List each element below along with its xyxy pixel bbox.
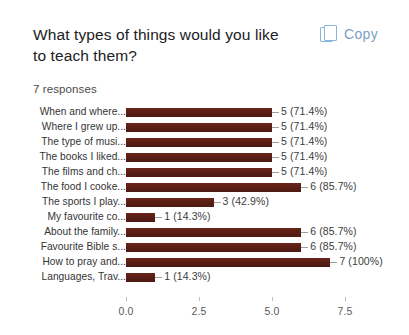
leader-line [301,247,308,248]
category-label: Where I grew up... [42,121,126,132]
x-axis-tick-label: 7.5 [337,305,352,317]
category-label: The films and ch... [42,166,126,177]
category-label: The books I liked... [39,151,126,162]
bar-value-label: 5 (71.4%) [281,135,327,147]
x-axis-tick [126,297,127,301]
copy-button[interactable]: Copy [320,25,378,42]
leader-line [272,157,279,158]
category-label: The sports I play... [42,196,126,207]
chart-row: The books I liked...5 (71.4%) [0,150,409,165]
x-axis-tick-label: 0.0 [118,305,133,317]
x-axis: 0.02.55.07.5 [0,297,409,335]
category-label: How to pray and... [42,256,126,267]
chart-row: My favourite co...1 (14.3%) [0,210,409,225]
chart-bar[interactable] [126,273,155,282]
chart-bar[interactable] [126,168,272,177]
chart-row: The films and ch...5 (71.4%) [0,165,409,180]
leader-line [214,202,221,203]
chart-bar[interactable] [126,123,272,132]
x-axis-tick-label: 5.0 [264,305,279,317]
chart-row: The type of musi...5 (71.4%) [0,135,409,150]
leader-line [272,142,279,143]
bar-chart: When and where...5 (71.4%)Where I grew u… [0,105,409,335]
copy-button-label: Copy [344,26,378,42]
chart-plot-area: When and where...5 (71.4%)Where I grew u… [0,105,409,297]
leader-line [272,112,279,113]
bar-value-label: 5 (71.4%) [281,120,327,132]
chart-bar[interactable] [126,183,301,192]
chart-bar[interactable] [126,213,155,222]
leader-line [330,262,337,263]
chart-row: The food I cooke...6 (85.7%) [0,180,409,195]
leader-line [155,277,162,278]
x-axis-tick-label: 2.5 [191,305,206,317]
form-response-card: What types of things would you like to t… [0,0,409,335]
bar-value-label: 6 (85.7%) [310,240,356,252]
leader-line [155,217,162,218]
page-title: What types of things would you like to t… [33,24,283,66]
category-label: When and where... [40,106,126,117]
chart-row: Favourite Bible s...6 (85.7%) [0,240,409,255]
chart-row: Where I grew up...5 (71.4%) [0,120,409,135]
bar-value-label: 5 (71.4%) [281,150,327,162]
chart-bar[interactable] [126,108,272,117]
category-label: About the family... [44,226,126,237]
leader-line [301,187,308,188]
category-label: Favourite Bible s... [41,241,126,252]
response-count: 7 responses [33,83,97,95]
bar-value-label: 5 (71.4%) [281,165,327,177]
chart-bar[interactable] [126,153,272,162]
chart-bar[interactable] [126,258,330,267]
chart-bar[interactable] [126,138,272,147]
category-label: The type of musi... [41,136,126,147]
chart-row: About the family...6 (85.7%) [0,225,409,240]
x-axis-tick [345,297,346,301]
bar-value-label: 6 (85.7%) [310,180,356,192]
x-axis-tick [272,297,273,301]
category-label: Languages, Trav... [41,271,126,282]
chart-bar[interactable] [126,198,214,207]
category-label: My favourite co... [48,211,126,222]
bar-value-label: 5 (71.4%) [281,105,327,117]
bar-value-label: 1 (14.3%) [164,210,210,222]
leader-line [272,172,279,173]
chart-header: What types of things would you like to t… [33,24,378,66]
chart-row: How to pray and...7 (100%) [0,255,409,270]
category-label: The food I cooke... [41,181,126,192]
bar-value-label: 1 (14.3%) [164,270,210,282]
bar-value-label: 3 (42.9%) [223,195,269,207]
leader-line [301,232,308,233]
bar-value-label: 7 (100%) [339,255,382,267]
copy-icon [320,25,337,42]
chart-bar[interactable] [126,243,301,252]
chart-row: The sports I play...3 (42.9%) [0,195,409,210]
bar-value-label: 6 (85.7%) [310,225,356,237]
x-axis-tick [199,297,200,301]
chart-row: Languages, Trav...1 (14.3%) [0,270,409,285]
leader-line [272,127,279,128]
chart-bar[interactable] [126,228,301,237]
chart-row: When and where...5 (71.4%) [0,105,409,120]
